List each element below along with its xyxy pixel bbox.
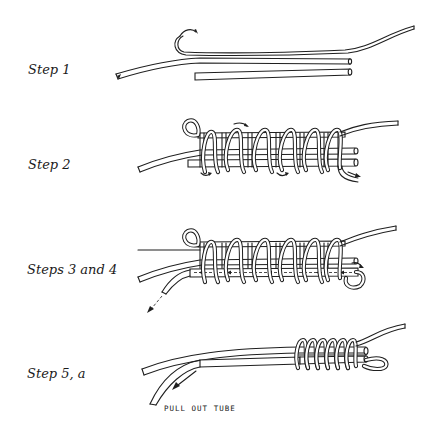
step-2-illustration [0,110,432,220]
pull-out-tube-annotation: PULL OUT TUBE [164,404,236,413]
step-5a-illustration [0,320,432,435]
steps-3-4-illustration [0,220,432,330]
step-1-illustration [0,0,432,110]
